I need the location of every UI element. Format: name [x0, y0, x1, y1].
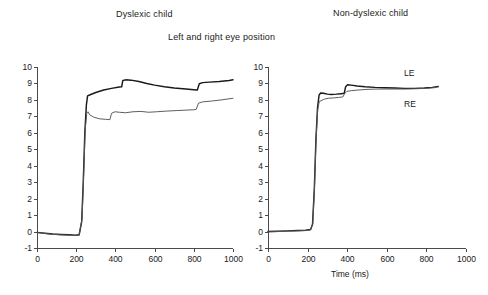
x-tick-label: 600	[140, 254, 172, 264]
y-tick-label: 8	[13, 95, 32, 105]
x-tick-label: 1000	[218, 254, 250, 264]
x-tick-label: 0	[22, 254, 54, 264]
y-tick-label: 8	[244, 95, 263, 105]
y-tick-label: 9	[244, 78, 263, 88]
y-tick-label: 5	[244, 144, 263, 154]
x-tick-label: 1000	[451, 254, 483, 264]
trace-re-left	[37, 98, 233, 235]
y-tick-label: 2	[244, 194, 263, 204]
panel-right-plot	[265, 67, 467, 252]
y-tick-label: 4	[244, 161, 263, 171]
y-tick-label: 2	[13, 194, 32, 204]
y-tick-label: 10	[244, 62, 263, 72]
x-tick-label: 400	[332, 254, 364, 264]
x-tick-label: 800	[179, 254, 211, 264]
trace-label-le: LE	[404, 68, 414, 78]
y-tick-label: 3	[244, 177, 263, 187]
panel-left-plot	[34, 67, 234, 252]
x-axis-title: Time (ms)	[331, 269, 369, 279]
y-tick-label: 7	[13, 111, 32, 121]
y-tick-label: 10	[13, 62, 32, 72]
x-tick-label: 800	[411, 254, 443, 264]
y-tick-label: 0	[13, 227, 32, 237]
y-tick-label: 0	[244, 227, 263, 237]
figure-container: Dyslexic child Non-dyslexic child Left a…	[0, 0, 488, 295]
y-tick-label: 3	[13, 177, 32, 187]
x-tick-label: 400	[100, 254, 132, 264]
trace-label-re: RE	[404, 99, 416, 109]
y-tick-label: 6	[244, 128, 263, 138]
trace-le-left	[37, 80, 233, 235]
y-tick-label: 6	[13, 128, 32, 138]
y-tick-label: 1	[244, 210, 263, 220]
y-tick-label: 7	[244, 111, 263, 121]
y-tick-label: 5	[13, 144, 32, 154]
x-tick-label: 200	[61, 254, 93, 264]
x-tick-label: 200	[293, 254, 325, 264]
y-tick-label: 4	[13, 161, 32, 171]
y-tick-label: -1	[13, 243, 32, 253]
y-tick-label: 9	[13, 78, 32, 88]
x-tick-label: 0	[253, 254, 285, 264]
panel-title-dyslexic: Dyslexic child	[116, 9, 173, 19]
panel-title-non-dyslexic: Non-dyslexic child	[333, 8, 408, 18]
figure-main-title: Left and right eye position	[168, 32, 275, 42]
y-tick-label: -1	[244, 243, 263, 253]
x-tick-label: 600	[372, 254, 404, 264]
y-tick-label: 1	[13, 210, 32, 220]
